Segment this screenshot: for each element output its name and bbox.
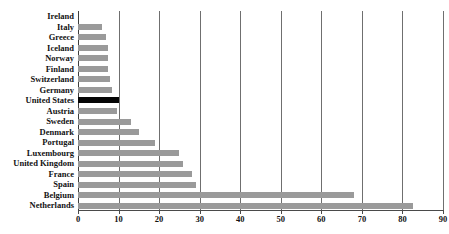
category-label-belgium: Belgium — [0, 190, 74, 201]
bar-norway — [78, 55, 108, 61]
x-tick-label-90: 90 — [439, 214, 448, 224]
bar-row — [78, 158, 443, 169]
bar-row — [78, 74, 443, 85]
bar-row — [78, 43, 443, 54]
x-tick-label-40: 40 — [236, 214, 245, 224]
x-axis-baseline — [78, 210, 444, 211]
x-tick-label-0: 0 — [76, 214, 80, 224]
bar-row — [78, 127, 443, 138]
x-tick-label-80: 80 — [398, 214, 407, 224]
bar-row — [78, 32, 443, 43]
x-tick-label-50: 50 — [277, 214, 286, 224]
bar-netherlands — [78, 203, 413, 209]
category-label-iceland: Iceland — [0, 43, 74, 54]
bar-united-kingdom — [78, 161, 183, 167]
bar-portugal — [78, 140, 155, 146]
bar-row — [78, 137, 443, 148]
category-label-portugal: Portugal — [0, 137, 74, 148]
bar-belgium — [78, 192, 354, 198]
bar-row — [78, 53, 443, 64]
bar-greece — [78, 34, 106, 40]
bar-germany — [78, 87, 112, 93]
category-label-united-states: United States — [0, 95, 74, 106]
plot-area — [78, 11, 443, 211]
category-label-denmark: Denmark — [0, 127, 74, 138]
bar-row — [78, 95, 443, 106]
bar-austria — [78, 108, 117, 114]
category-label-spain: Spain — [0, 179, 74, 190]
category-label-united-kingdom: United Kingdom — [0, 158, 74, 169]
x-tick-label-60: 60 — [317, 214, 326, 224]
x-tick-label-70: 70 — [358, 214, 367, 224]
category-label-austria: Austria — [0, 106, 74, 117]
bar-iceland — [78, 45, 108, 51]
bar-row — [78, 148, 443, 159]
bar-row — [78, 11, 443, 22]
bar-finland — [78, 66, 108, 72]
x-tick-label-20: 20 — [155, 214, 164, 224]
bar-row — [78, 116, 443, 127]
category-label-italy: Italy — [0, 22, 74, 33]
bar-row — [78, 22, 443, 33]
category-label-sweden: Sweden — [0, 116, 74, 127]
cropped-title-strip — [0, 0, 449, 6]
category-label-luxembourg: Luxembourg — [0, 148, 74, 159]
x-tick-label-10: 10 — [114, 214, 123, 224]
bar-row — [78, 190, 443, 201]
category-label-netherlands: Netherlands — [0, 200, 74, 211]
x-tick-label-30: 30 — [195, 214, 204, 224]
bar-united-states — [78, 97, 119, 103]
category-label-finland: Finland — [0, 64, 74, 75]
bar-row — [78, 169, 443, 180]
bar-row — [78, 179, 443, 190]
category-label-switzerland: Switzerland — [0, 74, 74, 85]
category-label-ireland: Ireland — [0, 11, 74, 22]
horizontal-bar-chart: 0102030405060708090IrelandItalyGreeceIce… — [0, 0, 449, 234]
category-label-norway: Norway — [0, 53, 74, 64]
bar-row — [78, 85, 443, 96]
bar-switzerland — [78, 76, 110, 82]
category-label-greece: Greece — [0, 32, 74, 43]
bar-luxembourg — [78, 150, 179, 156]
bar-row — [78, 64, 443, 75]
bar-sweden — [78, 119, 131, 125]
bar-denmark — [78, 129, 139, 135]
category-label-france: France — [0, 169, 74, 180]
bar-france — [78, 171, 192, 177]
category-label-germany: Germany — [0, 85, 74, 96]
bar-italy — [78, 24, 102, 30]
gridline-90 — [443, 11, 444, 211]
bar-spain — [78, 182, 196, 188]
bar-row — [78, 106, 443, 117]
